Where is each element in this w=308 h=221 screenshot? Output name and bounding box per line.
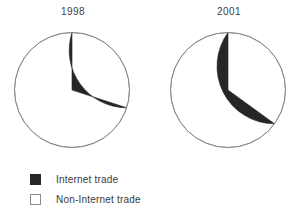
legend-item-internet-trade: Internet trade: [30, 169, 230, 189]
pie-svg-1998: [10, 27, 136, 153]
chart-legend: Internet trade Non-Internet trade: [30, 169, 230, 209]
pie-svg-2001: [166, 27, 292, 153]
pie-chart-1998: 1998: [10, 6, 136, 158]
legend-item-non-internet-trade: Non-Internet trade: [30, 189, 230, 209]
pie-title-2001: 2001: [166, 6, 292, 18]
legend-swatch-non-internet-trade-icon: [30, 194, 41, 205]
pie-chart-figure: 1998 2001 Internet trade Non-Internet tr…: [0, 0, 308, 221]
pie-title-1998: 1998: [10, 6, 136, 18]
legend-label-non-internet-trade: Non-Internet trade: [56, 194, 141, 205]
legend-label-internet-trade: Internet trade: [56, 174, 118, 185]
legend-swatch-internet-trade-icon: [30, 174, 41, 185]
pie-chart-2001: 2001: [166, 6, 292, 158]
